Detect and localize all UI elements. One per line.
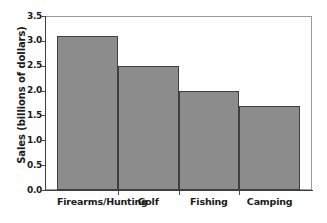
y-axis-tick-label: 1.0: [20, 136, 42, 145]
bar-slot: [179, 16, 240, 190]
bar[interactable]: [57, 36, 118, 190]
y-axis-tick-mark: [41, 165, 45, 166]
y-axis-tick-label: 3.0: [20, 36, 42, 45]
bar-slot: [118, 16, 179, 190]
y-axis-tick-labels: 0.00.51.01.52.02.53.03.5: [18, 0, 42, 223]
y-axis-tick-mark: [41, 190, 45, 191]
y-axis-tick-mark: [41, 41, 45, 42]
y-axis-tick-mark: [41, 140, 45, 141]
y-axis-tick-mark: [41, 115, 45, 116]
y-axis-tick-mark: [41, 16, 45, 17]
y-axis-tick-label: 1.5: [20, 111, 42, 120]
x-axis-tick-label: Firearms/Hunting: [57, 196, 118, 208]
bar-chart-figure: Sales (billions of dollars) 0.00.51.01.5…: [0, 0, 327, 223]
y-axis-tick-label: 2.0: [20, 86, 42, 95]
bar[interactable]: [239, 106, 300, 191]
x-axis-tick-mark: [118, 191, 119, 195]
y-axis-tick-label: 0.0: [20, 186, 42, 195]
y-axis-tick-label: 3.5: [20, 12, 42, 21]
x-axis-tick-label: Fishing: [179, 196, 240, 208]
bar-slot: [57, 16, 118, 190]
y-axis-tick-mark: [41, 66, 45, 67]
bar-slot: [239, 16, 300, 190]
x-axis-tick-label: Camping: [239, 196, 300, 208]
x-axis-tick-label: Golf: [118, 196, 179, 208]
bar[interactable]: [179, 91, 240, 190]
y-axis-tick-mark: [41, 91, 45, 92]
x-axis-tick-mark: [179, 191, 180, 195]
y-axis-tick-label: 2.5: [20, 61, 42, 70]
x-axis-tick-labels: Firearms/HuntingGolfFishingCamping: [45, 196, 312, 212]
y-axis-tick-label: 0.5: [20, 161, 42, 170]
x-axis-tick-mark: [239, 191, 240, 195]
bar[interactable]: [118, 66, 179, 190]
bars-container: [45, 16, 312, 190]
